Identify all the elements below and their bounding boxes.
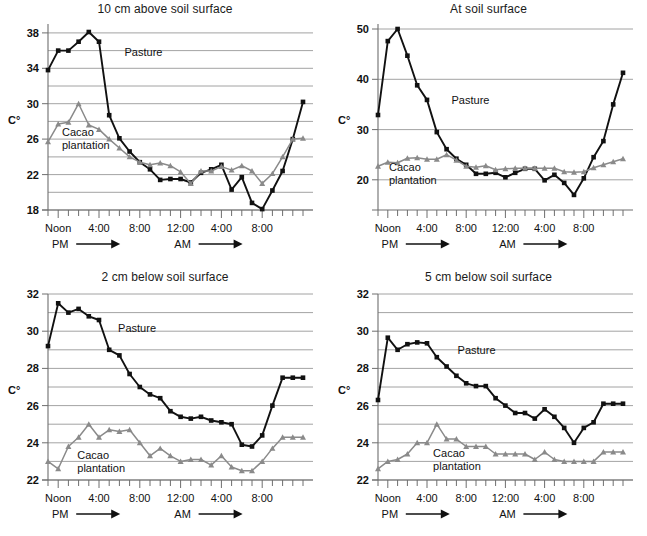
figure-root: 10 cm above soil surfaceC°182226303438No… [0,0,647,536]
x-tick-label: Noon [45,222,71,234]
data-point [46,68,51,73]
x-tick-label: Noon [45,492,71,504]
arrow-head-icon [558,240,567,249]
period-label-pm: PM [52,508,69,520]
data-point [250,444,255,449]
data-point [591,420,596,425]
y-tick-label: 28 [27,362,39,374]
data-point [87,314,92,319]
y-tick-label: 38 [27,27,39,39]
chart-panel-p4: 5 cm below soil surfaceC°222426283032Noo… [330,268,647,536]
data-point [582,176,587,181]
data-point [127,149,132,154]
data-point [542,407,547,412]
data-point [601,139,606,144]
x-tick-label: 8:00 [455,492,476,504]
period-label-am: AM [499,508,516,520]
data-point [425,341,430,346]
arrow-head-icon [558,510,567,519]
data-point [229,422,234,427]
data-point [56,301,61,306]
annotation-cacao-line2: plantation [62,139,110,151]
plot-area-p4: 222426283032Noon4:008:0012:004:008:00Pas… [330,268,647,532]
series-line-pasture [48,303,303,446]
data-point [572,193,577,198]
data-point [493,396,498,401]
data-point [97,318,102,323]
data-point [405,342,410,347]
data-point [376,398,381,403]
arrow-head-icon [441,510,450,519]
annotation-cacao-line1: Cacao [77,449,109,461]
y-tick-label: 18 [27,204,39,216]
data-point [218,453,224,459]
x-tick-label: 8:00 [573,222,594,234]
x-tick-label: 4:00 [88,492,109,504]
data-point [219,420,224,425]
data-point [523,411,528,416]
chart-panel-p3: 2 cm below soil surfaceC°222426283032Noo… [0,268,330,536]
x-tick-label: 8:00 [129,222,150,234]
data-point [562,181,567,186]
x-tick-label: 4:00 [211,492,232,504]
y-tick-label: 50 [357,23,369,35]
y-tick-label: 30 [27,325,39,337]
annotation-cacao-line1: Cacao [62,126,94,138]
x-tick-label: 8:00 [251,492,272,504]
arrow-head-icon [234,240,243,249]
data-point [66,48,71,53]
data-point [611,102,616,107]
annotation-cacao-line2: plantation [77,462,125,474]
data-point [127,372,132,377]
arrow-head-icon [111,510,120,519]
y-tick-label: 22 [357,474,369,486]
period-label-am: AM [174,238,191,250]
data-point [66,310,71,315]
plot-area-p1: 182226303438Noon4:008:0012:004:008:00Pas… [0,0,330,264]
data-point [395,348,400,353]
annotation-cacao-line1: Cacao [433,447,465,459]
x-tick-label: 12:00 [167,222,195,234]
data-point [270,188,275,193]
data-point [199,415,204,420]
data-point [250,201,255,206]
chart-panel-p2: At soil surfaceC°20304050Noon4:008:0012:… [330,0,647,268]
data-point [189,416,194,421]
series-line-pasture [378,338,623,443]
data-point [138,385,143,390]
data-point [562,426,567,431]
data-point [435,355,440,360]
y-tick-label: 30 [357,124,369,136]
data-point [621,401,626,406]
data-point [178,415,183,420]
data-point [464,381,469,386]
annotation-cacao-line1: Cacao [389,161,421,173]
data-point [239,163,245,169]
data-point [301,100,306,105]
data-point [484,172,489,177]
data-point [280,169,285,174]
data-point [240,175,245,180]
x-tick-label: 4:00 [416,492,437,504]
period-label-pm: PM [52,238,69,250]
data-point [503,175,508,180]
x-tick-label: 4:00 [534,492,555,504]
annotation-pasture: Pasture [118,322,156,334]
annotation-pasture: Pasture [125,46,163,58]
data-point [621,71,626,76]
y-tick-label: 20 [357,174,369,186]
data-point [148,167,153,172]
x-tick-label: 4:00 [88,222,109,234]
data-point [425,98,430,103]
period-label-pm: PM [382,238,399,250]
data-point [76,307,81,312]
data-point [484,384,489,389]
data-point [474,172,479,177]
y-tick-label: 26 [27,400,39,412]
data-point [76,39,81,44]
data-point [148,392,153,397]
series-line-cacao [378,424,623,469]
data-point [405,53,410,58]
x-tick-label: Noon [375,492,401,504]
data-point [454,374,459,379]
